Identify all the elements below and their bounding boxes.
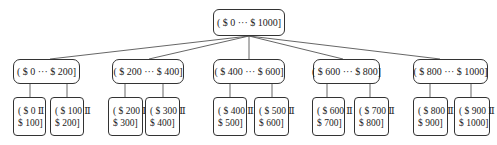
leaf-node-400-500: ( $ 400 Ⅱ $ 500] [213, 97, 247, 136]
leaf-node-300-400: ( $ 300 Ⅱ $ 400] [145, 97, 180, 136]
leaf-node-700-800: ( $ 700 Ⅱ $ 800] [354, 97, 389, 136]
leaf-node-100-200: ( $ 100 Ⅱ $ 200] [50, 97, 84, 136]
leaf-line2: $ 500] [218, 117, 243, 129]
leaf-line1: ( $ 900 Ⅱ [459, 105, 495, 117]
range-node-600-800: ( $ 600 ··· $ 800] [313, 59, 380, 84]
leaf-line1: ( $ 500 Ⅱ [259, 105, 295, 117]
leaf-line2: $ 200] [55, 117, 80, 129]
leaf-line1: ( $ 200 Ⅱ [113, 105, 149, 117]
leaf-line1: ( $ 800 Ⅱ [418, 105, 454, 117]
range-tree-diagram: ( $ 0 ··· $ 1000] ( $ 0 ··· $ 200] ( $ 2… [0, 0, 497, 145]
leaf-node-200-300: ( $ 200 Ⅱ $ 300] [108, 97, 143, 136]
leaf-line2: $ 800] [359, 117, 384, 129]
leaf-node-900-1000: ( $ 900 Ⅱ $ 1000] [454, 97, 490, 136]
leaf-line1: ( $ 300 Ⅱ [150, 105, 186, 117]
range-label: ( $ 200 ··· $ 400] [113, 66, 182, 78]
leaf-line1: ( $ 400 Ⅱ [218, 105, 254, 117]
leaf-node-500-600: ( $ 500 Ⅱ $ 600] [254, 97, 289, 136]
leaf-line1: ( $ 100 Ⅱ [55, 105, 91, 117]
range-node-400-600: ( $ 400 ··· $ 600] [213, 59, 285, 84]
leaf-line2: $ 100] [18, 117, 43, 129]
leaf-line2: $ 900] [418, 117, 443, 129]
leaf-line2: $ 400] [150, 117, 175, 129]
root-label: ( $ 0 ··· $ 1000] [217, 17, 281, 29]
leaf-line1: ( $ 700 Ⅱ [359, 105, 395, 117]
range-label: ( $ 800 ··· $ 1000] [413, 66, 487, 78]
leaf-node-600-700: ( $ 600 Ⅱ $ 700] [312, 97, 345, 136]
range-label: ( $ 600 ··· $ 800] [312, 66, 381, 78]
leaf-line2: $ 700] [317, 117, 342, 129]
range-label: ( $ 0 ··· $ 200] [17, 66, 76, 78]
leaf-line2: $ 600] [259, 117, 284, 129]
range-label: ( $ 400 ··· $ 600] [214, 66, 283, 78]
leaf-node-0-100: ( $ 0 Ⅱ $ 100] [13, 97, 46, 136]
leaf-line2: $ 300] [113, 117, 138, 129]
root-node: ( $ 0 ··· $ 1000] [213, 9, 285, 36]
leaf-line1: ( $ 600 Ⅱ [317, 105, 353, 117]
range-node-200-400: ( $ 200 ··· $ 400] [112, 59, 184, 84]
leaf-line2: $ 1000] [459, 117, 488, 129]
leaf-line1: ( $ 0 Ⅱ [18, 105, 44, 117]
range-node-800-1000: ( $ 800 ··· $ 1000] [413, 59, 488, 84]
leaf-node-800-900: ( $ 800 Ⅱ $ 900] [413, 97, 448, 136]
range-node-0-200: ( $ 0 ··· $ 200] [13, 59, 80, 84]
